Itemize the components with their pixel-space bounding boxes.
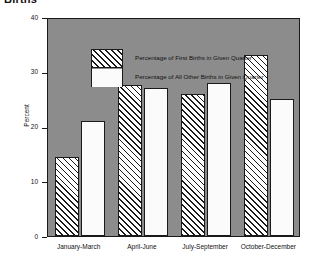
legend-label-other-births: Percentage of All Other Births in Given … xyxy=(135,73,264,80)
bar-first-births xyxy=(181,94,205,236)
bar-other-births xyxy=(144,88,168,236)
x-axis-tick-label: April-June xyxy=(127,243,156,250)
bar-first-births xyxy=(244,55,268,236)
y-axis-tick-label: 40 xyxy=(31,14,38,21)
page-title: Births xyxy=(4,0,37,5)
y-axis-tick-label: 10 xyxy=(31,178,38,185)
bar-other-births xyxy=(81,121,105,236)
bar-other-births xyxy=(270,99,294,236)
bar-other-births xyxy=(207,83,231,236)
y-axis-tick-label: 30 xyxy=(31,68,38,75)
x-axis-tick-label: October-December xyxy=(241,243,296,250)
bar-first-births xyxy=(118,85,142,236)
x-axis-tick-label: July-September xyxy=(182,243,228,250)
legend-swatch-other-births xyxy=(92,69,122,87)
y-axis-tick-mark xyxy=(42,237,47,238)
plot-area: Percentage of First Births in Given Quar… xyxy=(47,18,300,237)
x-axis-tick-label: January-March xyxy=(57,243,100,250)
births-bar-chart: Births Percent 010203040 Percentage of F… xyxy=(0,0,315,266)
y-axis-tick-label: 20 xyxy=(31,123,38,130)
legend-swatch-box xyxy=(91,49,123,87)
y-axis-label: Percent xyxy=(23,86,30,146)
legend-label-first-births: Percentage of First Births in Given Quar… xyxy=(135,54,252,61)
y-axis-tick-label: 0 xyxy=(34,233,38,240)
legend-swatch-first-births xyxy=(92,50,122,68)
bar-first-births xyxy=(55,157,79,236)
